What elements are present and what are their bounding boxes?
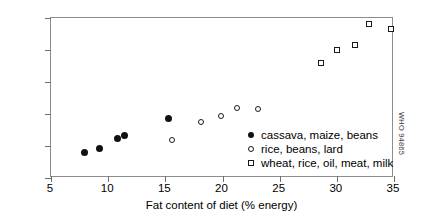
data-point bbox=[165, 115, 172, 122]
y-tick-mark bbox=[45, 114, 51, 115]
legend-item: wheat, rice, oil, meat, milk bbox=[244, 156, 393, 170]
y-tick-mark bbox=[45, 18, 51, 19]
data-point bbox=[114, 135, 121, 142]
legend-label: rice, beans, lard bbox=[258, 143, 343, 155]
legend-item: rice, beans, lard bbox=[244, 142, 393, 156]
data-point bbox=[169, 137, 175, 143]
chart-figure: body mass index (men) Fat content of die… bbox=[0, 0, 423, 220]
who-watermark: WHO 94865 bbox=[397, 112, 406, 155]
data-point bbox=[234, 105, 240, 111]
data-point bbox=[121, 132, 128, 139]
y-tick-mark bbox=[45, 50, 51, 51]
x-tick-label: 25 bbox=[264, 183, 294, 195]
y-tick-mark bbox=[45, 146, 51, 147]
data-point bbox=[352, 42, 358, 48]
data-point bbox=[255, 106, 261, 112]
x-axis-title: Fat content of diet (% energy) bbox=[50, 199, 393, 211]
legend-label: cassava, maize, beans bbox=[258, 129, 378, 141]
data-point bbox=[334, 47, 340, 53]
data-point bbox=[81, 149, 88, 156]
x-tick-label: 30 bbox=[321, 183, 351, 195]
x-tick-label: 10 bbox=[92, 183, 122, 195]
data-point bbox=[198, 119, 204, 125]
x-tick-label: 5 bbox=[35, 183, 65, 195]
chart-legend: cassava, maize, beansrice, beans, lardwh… bbox=[244, 128, 393, 170]
data-point bbox=[366, 21, 372, 27]
open-square-icon bbox=[244, 160, 258, 166]
data-point bbox=[388, 26, 394, 32]
data-point bbox=[218, 113, 224, 119]
data-point bbox=[318, 60, 324, 66]
data-point bbox=[96, 145, 103, 152]
y-tick-mark bbox=[45, 82, 51, 83]
x-tick-label: 35 bbox=[378, 183, 408, 195]
open-circle-icon bbox=[244, 146, 258, 152]
legend-item: cassava, maize, beans bbox=[244, 128, 393, 142]
legend-label: wheat, rice, oil, meat, milk bbox=[258, 157, 393, 169]
filled-circle-icon bbox=[244, 132, 258, 138]
x-tick-label: 15 bbox=[149, 183, 179, 195]
x-tick-label: 20 bbox=[207, 183, 237, 195]
